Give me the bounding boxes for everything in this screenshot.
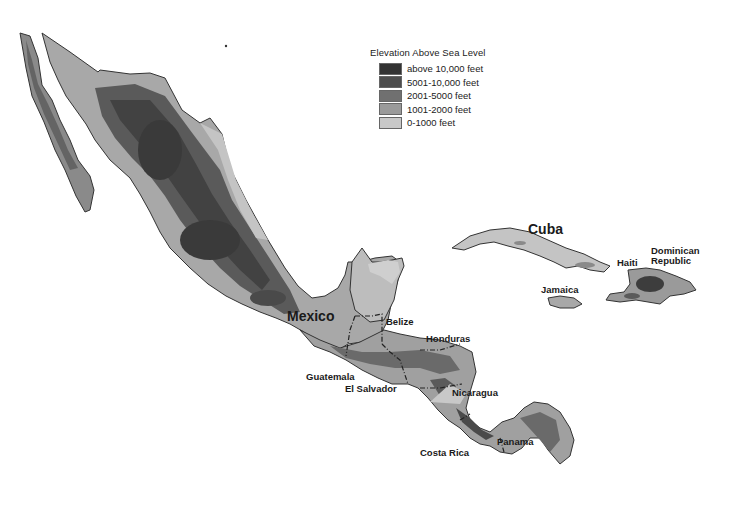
- label-mexico: Mexico: [287, 309, 334, 323]
- legend-item: 2001-5000 feet: [379, 89, 486, 103]
- label-dominican-republic: Dominican Republic: [651, 246, 700, 266]
- label-belize: Belize: [386, 317, 413, 327]
- legend-label: 1001-2000 feet: [407, 104, 471, 115]
- label-nicaragua: Nicaragua: [452, 388, 498, 398]
- legend-swatch: [379, 76, 402, 88]
- legend-item: above 10,000 feet: [379, 62, 486, 76]
- legend-item: 0-1000 feet: [379, 116, 486, 130]
- legend-swatch: [379, 90, 402, 102]
- label-costa-rica: Costa Rica: [420, 448, 469, 458]
- legend-label: 5001-10,000 feet: [407, 77, 479, 88]
- legend-swatch: [379, 63, 402, 75]
- label-panama: Panama: [497, 437, 533, 447]
- legend-label: 0-1000 feet: [407, 117, 455, 128]
- jamaica: [548, 296, 582, 308]
- legend-item: 1001-2000 feet: [379, 103, 486, 117]
- label-honduras: Honduras: [426, 334, 470, 344]
- legend-title: Elevation Above Sea Level: [370, 47, 486, 58]
- label-el-salvador: El Salvador: [345, 384, 397, 394]
- legend-label: 2001-5000 feet: [407, 90, 471, 101]
- label-dominican-line2: Republic: [651, 256, 700, 266]
- label-jamaica: Jamaica: [541, 285, 579, 295]
- legend-swatch: [379, 117, 402, 129]
- label-haiti: Haiti: [617, 258, 638, 268]
- elevation-legend: Elevation Above Sea Level above 10,000 f…: [370, 47, 486, 130]
- label-cuba: Cuba: [528, 222, 563, 236]
- legend-swatch: [379, 103, 402, 115]
- legend-item: 5001-10,000 feet: [379, 76, 486, 90]
- label-guatemala: Guatemala: [306, 372, 355, 382]
- legend-label: above 10,000 feet: [407, 63, 483, 74]
